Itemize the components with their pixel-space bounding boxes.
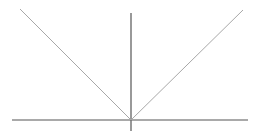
figure-background xyxy=(0,0,260,135)
line-diagram xyxy=(0,0,260,135)
figure-canvas xyxy=(0,0,260,135)
